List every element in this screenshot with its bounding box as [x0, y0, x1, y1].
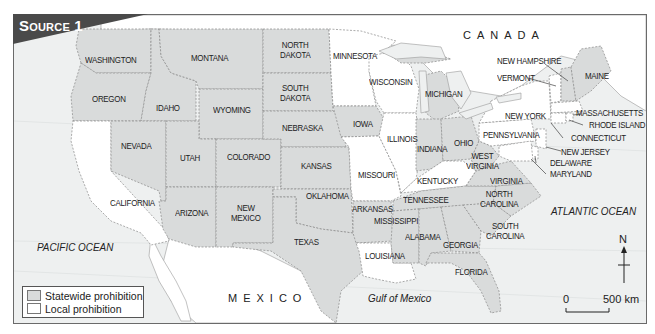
label-line-1: WEST	[471, 151, 493, 161]
state-florida	[426, 253, 501, 313]
label-line-1: NEW	[237, 203, 255, 213]
state-label-georgia: GEORGIA	[443, 240, 478, 250]
legend-label: Statewide prohibition	[45, 290, 142, 302]
state-label-south-carolina: SOUTHCAROLINA	[486, 221, 524, 241]
state-label-california: CALIFORNIA	[110, 198, 155, 208]
label-line-1: NORTH	[282, 40, 309, 50]
legend-label: Local prohibition	[45, 303, 121, 315]
label-line-2: CAROLINA	[486, 231, 524, 241]
state-label-delaware: DELAWARE	[550, 158, 592, 168]
state-label-kentucky: KENTUCKY	[417, 176, 458, 186]
state-label-indiana: INDIANA	[417, 144, 447, 154]
state-label-mississippi: MISSISSIPPI	[374, 216, 418, 226]
state-label-south-dakota: SOUTHDAKOTA	[280, 83, 310, 103]
legend: Statewide prohibition Local prohibition	[22, 286, 144, 318]
state-label-new-jersey: NEW JERSEY	[561, 147, 610, 157]
state-label-nevada: NEVADA	[121, 141, 151, 151]
state-label-vermont: VERMONT	[497, 73, 535, 83]
legend-item-statewide: Statewide prohibition	[27, 290, 142, 301]
label-line-2: DAKOTA	[280, 93, 310, 103]
state-label-alabama: ALABAMA	[405, 232, 441, 242]
water-label-pacific: PACIFIC OCEAN	[37, 241, 113, 253]
scale-bar-line	[563, 290, 623, 320]
state-label-illinois: ILLINOIS	[387, 134, 417, 144]
state-label-rhode-island: RHODE ISLAND	[589, 120, 645, 130]
state-label-michigan: MICHIGAN	[425, 89, 462, 99]
state-label-ohio: OHIO	[454, 138, 473, 148]
state-label-connecticut: CONNECTICUT	[571, 133, 626, 143]
state-label-oregon: OREGON	[92, 94, 126, 104]
state-label-louisiana: LOUISIANA	[365, 251, 405, 261]
state-connecticut	[551, 113, 566, 123]
state-colorado	[216, 139, 281, 187]
state-label-missouri: MISSOURI	[358, 170, 395, 180]
state-label-new-york: NEW YORK	[505, 111, 546, 121]
state-label-nebraska: NEBRASKA	[282, 123, 323, 133]
state-label-wisconsin: WISCONSIN	[369, 77, 412, 87]
state-label-tennessee: TENNESSEE	[403, 195, 449, 205]
state-label-new-mexico: NEWMEXICO	[231, 203, 261, 223]
state-label-texas: TEXAS	[294, 237, 319, 247]
water-label-gulf: Gulf of Mexico	[368, 292, 431, 304]
state-label-west-virginia: WESTVIRGINIA	[466, 151, 499, 171]
label-line-2: DAKOTA	[280, 50, 310, 60]
label-line-2: VIRGINIA	[466, 161, 499, 171]
north-arrow: N	[617, 233, 631, 283]
label-line-1: SOUTH	[492, 221, 518, 231]
state-label-massachusetts: MASSACHUSETTS	[576, 108, 643, 118]
label-line-1: SOUTH	[282, 83, 308, 93]
state-label-north-dakota: NORTHDAKOTA	[280, 40, 310, 60]
north-arrow-icon	[617, 233, 631, 283]
state-label-minnesota: MINNESOTA	[333, 51, 377, 61]
state-label-montana: MONTANA	[191, 53, 228, 63]
state-label-florida: FLORIDA	[455, 267, 487, 277]
legend-swatch-local	[27, 303, 41, 314]
state-label-wyoming: WYOMING	[213, 105, 251, 115]
state-label-maine: MAINE	[585, 71, 609, 81]
source-title: Source 1	[19, 17, 83, 34]
label-line-2: MEXICO	[231, 213, 261, 223]
state-label-virginia: VIRGINIA	[490, 176, 523, 186]
water-label-atlantic: ATLANTIC OCEAN	[551, 205, 636, 217]
state-label-arizona: ARIZONA	[175, 208, 208, 218]
state-label-new-hampshire: NEW HAMPSHIRE	[497, 56, 561, 66]
country-label-canada: CANADA	[463, 29, 545, 41]
state-label-arkansas: ARKANSAS	[352, 204, 393, 214]
state-label-washington: WASHINGTON	[85, 55, 136, 65]
state-label-north-carolina: NORTHCAROLINA	[480, 189, 518, 209]
state-label-pennsylvania: PENNSYLVANIA	[483, 130, 539, 140]
state-label-kansas: KANSAS	[301, 161, 332, 171]
label-line-2: CAROLINA	[480, 199, 518, 209]
state-label-colorado: COLORADO	[227, 152, 270, 162]
state-label-oklahoma: OKLAHOMA	[306, 191, 349, 201]
label-line-1: NORTH	[486, 189, 513, 199]
state-label-utah: UTAH	[180, 153, 200, 163]
state-label-idaho: IDAHO	[156, 103, 180, 113]
legend-item-local: Local prohibition	[27, 303, 121, 314]
state-label-iowa: IOWA	[353, 119, 373, 129]
legend-swatch-statewide	[27, 290, 41, 301]
country-label-mexico: MEXICO	[228, 292, 307, 304]
state-rhode-island	[566, 113, 573, 121]
state-vermont	[549, 73, 561, 103]
state-label-maryland: MARYLAND	[550, 169, 592, 179]
